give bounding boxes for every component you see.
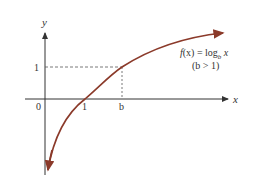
y-tick-1: 1 (34, 62, 39, 73)
x-tick-b: b (119, 101, 124, 112)
x-tick-1: 1 (82, 101, 87, 112)
y-axis-label: y (41, 16, 47, 28)
x-axis-label: x (232, 93, 238, 105)
log-function-graph: y x 0 1 b 1 f(x) = logb x (b > 1) (0, 0, 253, 180)
function-formula: f(x) = logb x (180, 47, 229, 61)
log-curve-bottom-arrow (48, 150, 52, 170)
origin-label: 0 (36, 101, 41, 112)
condition-label: (b > 1) (192, 60, 219, 72)
